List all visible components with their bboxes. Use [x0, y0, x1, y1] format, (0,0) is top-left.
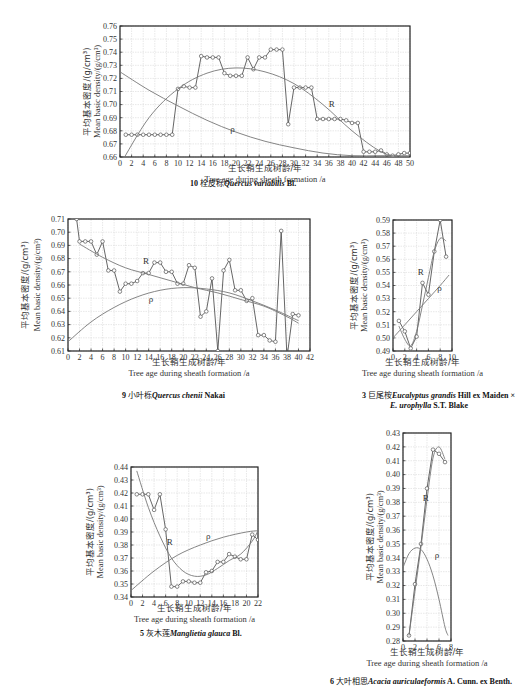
y-tick-label: 0.49 — [376, 347, 390, 356]
data-point-marker — [408, 151, 412, 155]
y-tick-label: 0.41 — [386, 457, 400, 466]
y-tick-label: 0.38 — [114, 541, 128, 550]
y-tick-label: 0.50 — [376, 334, 390, 343]
data-point-marker — [165, 133, 169, 137]
data-point-marker — [153, 133, 157, 137]
y-tick-label: 0.54 — [376, 281, 390, 290]
y-tick-label: 0.42 — [114, 489, 128, 498]
data-point-marker — [409, 347, 413, 351]
data-point-marker — [315, 117, 319, 121]
y-tick-label: 0.38 — [386, 498, 400, 507]
y-tick-label: 0.33 — [386, 567, 400, 576]
data-point-marker — [118, 290, 122, 294]
y-tick-label: 0.42 — [386, 443, 400, 452]
y-tick-label: 0.31 — [386, 595, 400, 604]
data-point-marker — [228, 258, 232, 262]
y-tick-label: 0.61 — [51, 347, 65, 356]
x-tick-label: 4 — [152, 599, 156, 608]
x-tick-label: 32 — [302, 159, 310, 168]
x-tick-label: 42 — [360, 159, 368, 168]
data-point-marker — [158, 261, 162, 265]
data-point-marker — [403, 330, 407, 334]
x-tick-label: 50 — [406, 159, 414, 168]
data-point-marker — [124, 133, 128, 137]
x-tick-label: 34 — [260, 353, 268, 362]
data-point-marker — [286, 122, 290, 126]
data-point-marker — [344, 119, 348, 123]
x-axis-title-en: Tree age during sheath formation /a — [366, 658, 487, 668]
x-tick-label: 44 — [371, 159, 379, 168]
data-point-marker — [239, 558, 243, 562]
x-tick-label: 0 — [129, 599, 133, 608]
data-point-marker — [188, 86, 192, 90]
y-tick-label: 0.73 — [103, 61, 117, 70]
data-point-marker — [275, 48, 279, 52]
series — [131, 471, 260, 591]
y-tick-label: 0.32 — [386, 581, 400, 590]
y-tick-label: 0.56 — [376, 255, 390, 264]
r-fit-curve — [120, 68, 410, 165]
y-tick-label: 0.66 — [103, 153, 117, 162]
data-point-marker — [187, 580, 191, 584]
y-tick-label: 0.36 — [386, 526, 400, 535]
figure-caption: 5 灰木莲Manglietia glauca Bl. — [140, 628, 242, 638]
x-axis-title-en: Tree age during sheath formation /a — [128, 368, 249, 378]
chart-3: 02468100.490.500.510.520.530.540.550.560… — [349, 216, 515, 410]
figure-caption: 3 巨尾桉Eucalyptus grandis Hill ex Maiden × — [362, 390, 515, 400]
y-tick-label: 0.29 — [386, 623, 400, 632]
y-tick-label: 0.57 — [376, 242, 390, 251]
y-tick-label: 0.30 — [386, 609, 400, 618]
data-point-marker — [257, 56, 261, 60]
data-point-marker — [262, 333, 266, 337]
data-point-marker — [356, 121, 360, 125]
x-tick-label: 0 — [66, 353, 70, 362]
data-point-marker — [274, 340, 278, 344]
data-point-marker — [350, 121, 354, 125]
data-point-marker — [130, 282, 134, 286]
data-point-marker — [204, 310, 208, 314]
y-tick-label: 0.41 — [114, 502, 128, 511]
data-point-marker — [164, 270, 168, 274]
data-point-marker — [130, 133, 134, 137]
y-tick-label: 0.36 — [114, 567, 128, 576]
data-point-marker — [141, 133, 145, 137]
data-point-marker — [438, 218, 442, 222]
grid — [403, 433, 451, 641]
data-point-marker — [246, 56, 250, 60]
y-tick-label: 0.64 — [51, 307, 65, 316]
chart-10: 0246810121416182022242628303234363840424… — [82, 22, 414, 188]
rho-curve-label: ρ — [149, 294, 154, 304]
y-axis-title-cn: 平均基本密度/(g/cm³) — [20, 241, 30, 329]
figure-caption-line2: E. urophylla S.T. Blake — [389, 401, 469, 410]
data-point-marker — [427, 293, 431, 297]
data-point-marker — [444, 255, 448, 259]
data-point-marker — [89, 240, 93, 244]
y-tick-label: 0.69 — [51, 241, 65, 250]
x-axis-title-cn: 生长鞘生成树龄/年 — [228, 163, 303, 173]
data-point-marker — [75, 217, 79, 221]
data-point-marker — [211, 56, 215, 60]
x-tick-label: 8 — [112, 353, 116, 362]
x-tick-label: 0 — [118, 159, 122, 168]
y-tick-label: 0.66 — [51, 281, 65, 290]
r-curve-label: R — [167, 537, 173, 547]
data-point-marker — [164, 528, 168, 532]
data-point-marker — [291, 312, 295, 316]
data-point-marker — [268, 339, 272, 343]
r-curve-label: R — [143, 256, 149, 266]
data-point-marker — [333, 117, 337, 121]
y-tick-label: 0.37 — [114, 554, 128, 563]
r-curve-label: R — [423, 493, 429, 503]
data-point-marker — [83, 240, 87, 244]
x-axis-title-en: Tree age during sheath formation /a — [134, 614, 255, 624]
data-point-marker — [402, 151, 406, 155]
y-axis-title-cn: 平均基本密度/(g/cm³) — [82, 47, 92, 135]
y-axis-title-en: Mean basic density/(g/cm³) — [95, 485, 105, 578]
y-tick-label: 0.58 — [376, 229, 390, 238]
grid — [131, 467, 258, 597]
rho-curve-label: ρ — [206, 531, 211, 541]
x-tick-label: 8 — [164, 159, 168, 168]
y-tick-label: 0.68 — [103, 127, 117, 136]
data-point-marker — [310, 86, 314, 90]
x-tick-label: 20 — [242, 599, 250, 608]
